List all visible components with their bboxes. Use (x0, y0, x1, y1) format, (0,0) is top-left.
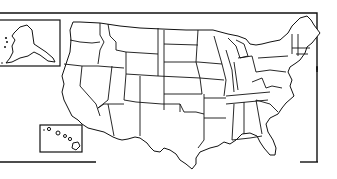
alaska-inset (0, 20, 60, 66)
us-outline-map (0, 0, 337, 179)
hawaii-inset (40, 125, 82, 152)
contiguous-us (62, 16, 320, 169)
usa-outline (62, 16, 320, 169)
